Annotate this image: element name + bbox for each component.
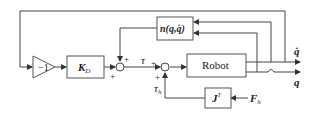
block-diagram: −1 KD n(q,q̇) + + τ + + τh Robot JT Fh: [0, 0, 314, 116]
gain-label: −1: [38, 62, 49, 73]
sum2-sign-bottom: +: [155, 72, 160, 82]
q-line-hop: [268, 70, 274, 73]
qdot-output-label: q̇: [294, 45, 300, 57]
sum-junction-2: [161, 63, 169, 71]
nonlinear-label: n(q,q̇): [160, 23, 185, 35]
q-output-label: q: [294, 76, 300, 88]
tau-label: τ: [141, 54, 146, 66]
gain-block[interactable]: −1: [33, 56, 55, 78]
tau-h-sub: h: [158, 88, 162, 96]
nonlinear-block[interactable]: n(q,q̇): [157, 17, 193, 40]
robot-label: Robot: [202, 59, 229, 71]
kd-block[interactable]: KD: [67, 56, 104, 78]
kd-label-sub: D: [84, 67, 90, 75]
svg-text:τh: τh: [154, 82, 162, 96]
jacobian-block[interactable]: JT: [205, 88, 231, 108]
sum-junction-1: [116, 63, 124, 71]
force-sub: h: [257, 98, 261, 106]
sum2-sign-left: +: [151, 58, 156, 68]
sum1-sign-left: +: [110, 71, 115, 81]
sum1-sign-top: +: [124, 54, 129, 64]
svg-text:Fh: Fh: [249, 92, 261, 106]
robot-block[interactable]: Robot: [187, 54, 246, 77]
